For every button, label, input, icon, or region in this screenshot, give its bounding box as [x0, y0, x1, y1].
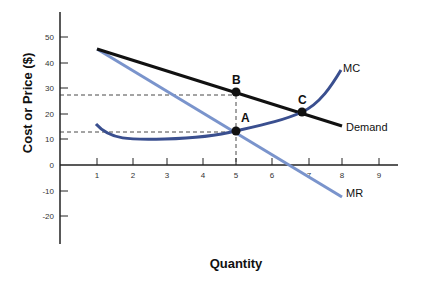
mr-label: MR [346, 187, 363, 199]
x-tick-9: 9 [377, 171, 382, 180]
x-tick-labels: 1 2 3 4 5 6 7 8 9 [95, 171, 382, 180]
x-ticks [97, 158, 379, 165]
y-tick-20: 20 [45, 110, 54, 119]
point-c-label: C [298, 93, 307, 107]
y-tick-neg20: -20 [42, 212, 54, 221]
y-ticks [60, 37, 68, 216]
economics-chart: 50 40 30 20 10 0 -10 -20 1 2 3 4 5 6 7 8… [0, 0, 432, 288]
y-axis-title: Cost or Price ($) [20, 53, 35, 153]
y-tick-50: 50 [45, 33, 54, 42]
x-tick-3: 3 [165, 171, 170, 180]
x-axis-title: Quantity [210, 256, 263, 271]
x-tick-4: 4 [201, 171, 206, 180]
point-c-marker [298, 108, 307, 117]
y-tick-0: 0 [50, 161, 55, 170]
mc-label: MC [343, 62, 360, 74]
x-tick-2: 2 [131, 171, 136, 180]
y-tick-labels: 50 40 30 20 10 0 -10 -20 [42, 33, 54, 221]
y-tick-10: 10 [45, 135, 54, 144]
y-tick-40: 40 [45, 59, 54, 68]
point-b-marker [232, 88, 241, 97]
reference-lines [60, 95, 236, 165]
x-tick-8: 8 [340, 171, 345, 180]
y-tick-30: 30 [45, 84, 54, 93]
x-tick-5: 5 [234, 171, 239, 180]
x-tick-1: 1 [95, 171, 100, 180]
point-a-marker [232, 127, 241, 136]
y-tick-neg10: -10 [42, 187, 54, 196]
demand-label: Demand [346, 121, 388, 133]
point-b-label: B [232, 73, 241, 87]
x-tick-6: 6 [270, 171, 275, 180]
point-a-label: A [241, 111, 250, 125]
